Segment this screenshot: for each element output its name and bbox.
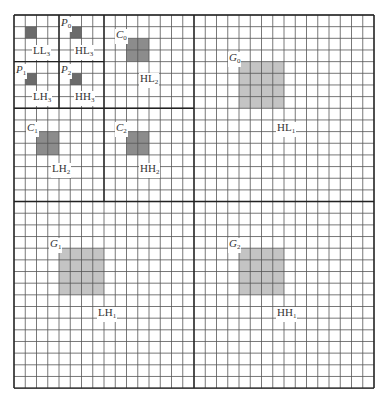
subband-label-lh3: LH3 <box>32 91 52 106</box>
node-marker-c2: C2 <box>115 122 128 137</box>
subband-label-hh2: HH2 <box>139 163 160 178</box>
wavelet-decomposition-diagram: LL3HL3P0LH3P1HH3P2HL2C0LH2C1HH2C2HL1G0LH… <box>0 0 387 402</box>
node-marker-letter: P <box>61 16 68 28</box>
grid <box>0 0 387 402</box>
node-marker-index: 0 <box>237 57 241 65</box>
node-marker-index: 0 <box>68 22 72 30</box>
subband-label-level: 3 <box>90 50 94 58</box>
subband-label-hl1: HL1 <box>276 122 296 137</box>
subband-label-level: 2 <box>156 168 160 176</box>
node-marker-index: 1 <box>58 243 62 251</box>
node-marker-index: 2 <box>68 69 72 77</box>
node-marker-index: 0 <box>123 34 127 42</box>
node-marker-p0: P0 <box>60 17 72 32</box>
subband-label-text: LH <box>52 162 67 174</box>
subband-label-level: 2 <box>67 168 71 176</box>
node-marker-index: 1 <box>23 69 27 77</box>
subband-label-level: 3 <box>46 50 50 58</box>
node-marker-letter: P <box>61 63 68 75</box>
subband-label-text: HL <box>140 72 155 84</box>
subband-label-level: 1 <box>292 127 296 135</box>
node-marker-letter: G <box>229 51 237 63</box>
node-marker-g2: G2 <box>228 238 241 253</box>
subband-label-level: 2 <box>155 78 159 86</box>
subband-label-text: LL <box>33 44 46 56</box>
subband-label-ll3: LL3 <box>32 45 51 60</box>
subband-label-lh2: LH2 <box>51 163 71 178</box>
node-marker-letter: G <box>229 237 237 249</box>
subband-label-level: 3 <box>91 96 95 104</box>
subband-label-hl2: HL2 <box>139 73 159 88</box>
subband-label-text: HL <box>75 44 90 56</box>
subband-label-text: HH <box>277 306 293 318</box>
node-marker-g1: G1 <box>49 238 62 253</box>
subband-label-lh1: LH1 <box>97 307 117 322</box>
subband-label-text: HL <box>277 121 292 133</box>
node-marker-p2: P2 <box>60 64 72 79</box>
node-marker-index: 1 <box>34 127 38 135</box>
coefficient-block-ll3 <box>25 27 36 39</box>
node-marker-index: 2 <box>123 127 127 135</box>
node-marker-index: 2 <box>237 243 241 251</box>
subband-label-hh1: HH1 <box>276 307 297 322</box>
subband-label-level: 3 <box>48 96 52 104</box>
node-marker-c1: C1 <box>26 122 39 137</box>
subband-label-text: LH <box>98 306 113 318</box>
subband-label-hl3: HL3 <box>74 45 94 60</box>
subband-label-level: 1 <box>113 312 117 320</box>
node-marker-letter: G <box>50 237 58 249</box>
subband-label-text: HH <box>75 90 91 102</box>
subband-label-level: 1 <box>293 312 297 320</box>
node-marker-g0: G0 <box>228 52 241 67</box>
subband-label-text: LH <box>33 90 48 102</box>
node-marker-letter: P <box>16 63 23 75</box>
node-marker-p1: P1 <box>15 64 27 79</box>
subband-label-text: HH <box>140 162 156 174</box>
subband-label-hh3: HH3 <box>74 91 95 106</box>
node-marker-c0: C0 <box>115 29 128 44</box>
